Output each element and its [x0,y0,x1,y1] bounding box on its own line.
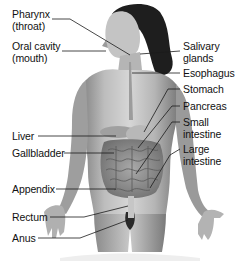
label-small-intestine-line1: Small [183,116,221,128]
label-pharynx-line1: Pharynx [12,8,50,20]
label-salivary-glands: Salivary glands [183,40,220,64]
label-large-intestine-line2: intestine [183,155,221,167]
label-salivary-glands-line2: glands [183,52,220,64]
digestive-system-diagram: Pharynx (throat) Oral cavity (mouth) Liv… [0,0,243,261]
label-gallbladder: Gallbladder [12,147,65,159]
rectum-organ [128,196,134,218]
label-salivary-glands-line1: Salivary [183,40,220,52]
label-pharynx: Pharynx (throat) [12,8,50,32]
label-pancreas: Pancreas [183,100,227,112]
label-stomach: Stomach [183,83,224,95]
label-appendix: Appendix [12,183,55,195]
label-anus: Anus [12,232,36,244]
label-liver: Liver [12,130,34,142]
label-large-intestine-line1: Large [183,143,221,155]
label-rectum: Rectum [12,211,48,223]
label-small-intestine: Small intestine [183,116,221,140]
label-small-intestine-line2: intestine [183,128,221,140]
label-large-intestine: Large intestine [183,143,221,167]
label-oral-cavity-line1: Oral cavity [12,40,61,52]
label-pharynx-line2: (throat) [12,20,50,32]
label-oral-cavity-line2: (mouth) [12,52,61,64]
label-esophagus: Esophagus [183,67,235,79]
label-oral-cavity: Oral cavity (mouth) [12,40,61,64]
